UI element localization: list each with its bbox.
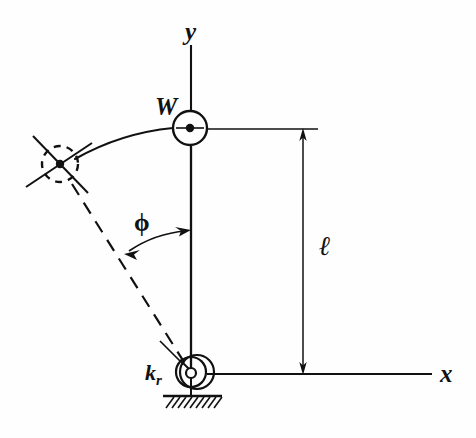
mass-center-dot bbox=[186, 124, 194, 132]
ground-hatching bbox=[166, 397, 222, 408]
displaced-rod-dashed bbox=[72, 184, 189, 370]
y-axis-label: y bbox=[185, 19, 196, 44]
pivot-hub-circle bbox=[186, 368, 196, 378]
physics-diagram: y x W ℓ ϕ kr bbox=[0, 0, 476, 438]
displaced-bob-center-dot bbox=[56, 160, 64, 168]
weight-label: W bbox=[155, 94, 177, 119]
angle-label: ϕ bbox=[134, 210, 150, 235]
length-label: ℓ bbox=[319, 233, 331, 260]
spring-constant-symbol: k bbox=[145, 360, 156, 385]
diagram-canvas bbox=[0, 0, 476, 438]
spring-label-leader-line bbox=[160, 341, 180, 361]
angle-arrow-left bbox=[124, 250, 140, 260]
spring-constant-subscript: r bbox=[156, 372, 162, 388]
spring-constant-label: kr bbox=[145, 362, 162, 388]
x-axis-label: x bbox=[440, 361, 453, 386]
